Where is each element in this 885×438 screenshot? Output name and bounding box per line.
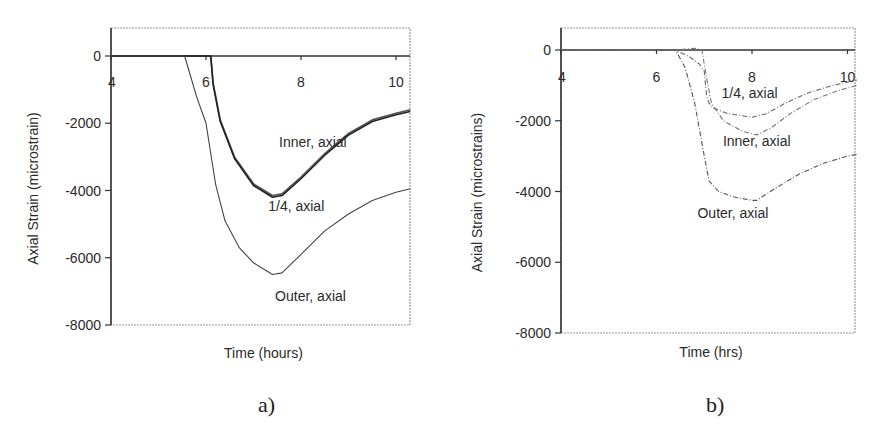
- x-tick-label: 4: [108, 74, 116, 90]
- y-tick-label: -4000: [65, 183, 101, 199]
- y-tick-label: -6000: [515, 254, 551, 270]
- series-line-1-4-axial: [561, 50, 857, 117]
- x-axis-title: Time (hours): [224, 345, 303, 361]
- series-line-outer-axial: [561, 50, 857, 200]
- series-annotation: 1/4, axial: [722, 85, 778, 101]
- series-line-inner-axial: [561, 48, 857, 135]
- series-annotation: Inner, axial: [723, 133, 791, 149]
- y-tick-label: 0: [543, 42, 551, 58]
- series-line-1-4-axial: [111, 56, 410, 197]
- series-line-outer-axial: [111, 56, 410, 275]
- y-tick-label: -6000: [65, 250, 101, 266]
- plot-frame: [111, 28, 410, 325]
- y-tick-label: -2000: [65, 115, 101, 131]
- caption-b: b): [706, 392, 724, 418]
- line-chart-a: 0-2000-4000-6000-800046810Time (hours)Ax…: [0, 0, 440, 438]
- y-axis-title: Axial Strain (microstrain): [25, 112, 41, 264]
- x-tick-label: 8: [297, 74, 305, 90]
- plot-frame: [561, 28, 855, 333]
- y-tick-label: -8000: [515, 325, 551, 341]
- y-axis-title: Axial Strain (microstrains): [469, 113, 485, 272]
- series-annotation: 1/4, axial: [268, 198, 324, 214]
- x-tick-label: 6: [653, 69, 661, 85]
- x-tick-label: 10: [388, 74, 404, 90]
- caption-a: a): [258, 392, 275, 418]
- x-tick-label: 4: [558, 69, 566, 85]
- y-tick-label: -4000: [515, 184, 551, 200]
- y-tick-label: 0: [93, 48, 101, 64]
- series-annotation: Inner, axial: [279, 134, 347, 150]
- line-chart-b: 0-2000-4000-6000-800046810Time (hrs)Axia…: [440, 0, 885, 438]
- series-annotation: Outer, axial: [275, 288, 346, 304]
- x-tick-label: 6: [202, 74, 210, 90]
- x-tick-label: 8: [748, 69, 756, 85]
- chart-panel-a: 0-2000-4000-6000-800046810Time (hours)Ax…: [0, 0, 440, 438]
- series-annotation: Outer, axial: [697, 205, 768, 221]
- x-axis-title: Time (hrs): [679, 344, 742, 360]
- y-tick-label: -2000: [515, 113, 551, 129]
- chart-panel-b: 0-2000-4000-6000-800046810Time (hrs)Axia…: [440, 0, 885, 438]
- y-tick-label: -8000: [65, 317, 101, 333]
